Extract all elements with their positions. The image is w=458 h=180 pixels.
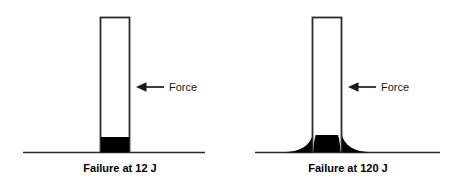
force-label: Force (169, 81, 197, 93)
panel-low-energy: Force Failure at 12 J (23, 18, 205, 175)
failure-zone-block (101, 137, 129, 152)
figure-canvas: Force Failure at 12 J Force Failure at 1… (0, 0, 458, 180)
force-arrow-head (136, 82, 147, 91)
force-arrow-head (348, 82, 359, 91)
panel-high-energy: Force Failure at 120 J (255, 18, 440, 175)
column-outline (313, 18, 342, 153)
force-arrow (348, 82, 376, 91)
force-label: Force (381, 81, 409, 93)
force-arrow (136, 82, 164, 91)
panel-caption: Failure at 12 J (83, 162, 156, 174)
failure-zone-seat (313, 135, 340, 152)
failure-comparison-figure: Force Failure at 12 J Force Failure at 1… (0, 0, 458, 180)
column-outline (101, 18, 130, 153)
panel-caption: Failure at 120 J (308, 162, 388, 174)
